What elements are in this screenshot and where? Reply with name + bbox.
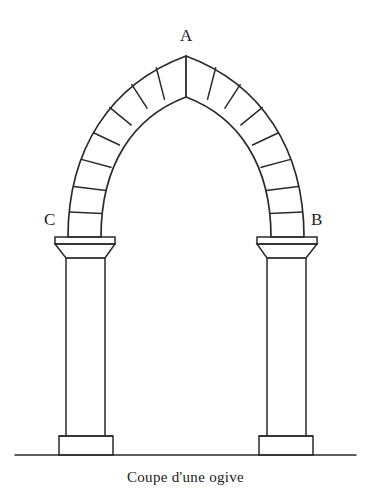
vertex-label-b: B [311,211,323,228]
left-column-echinus [55,244,115,258]
arch-right-voussoir-joint-4 [252,133,279,146]
arch-right-half [186,56,304,237]
arch-left-intrados [101,97,186,237]
vertex-label-c: C [44,211,56,228]
arch-left-half [68,56,186,237]
ogive-arch-drawing [0,0,371,501]
right-column-echinus [257,244,317,258]
arch-left-voussoir-joint-2 [74,187,106,191]
arch-left-voussoir-joint-6 [132,84,148,108]
arch-left-voussoir-joint-4 [93,133,120,146]
right-column-shaft [267,258,306,436]
left-column-shaft [66,258,105,436]
arch-left-voussoir-joint-7 [156,67,164,100]
arch-right-extrados [186,56,304,237]
left-column-plinth [59,436,113,455]
left-column [55,237,115,455]
arch-right-voussoir-joint-7 [207,67,215,100]
arch-right-voussoir-joint-1 [270,212,303,214]
figure-page: A C B Coupe d'une ogive [0,0,371,501]
right-column-plinth [259,436,313,455]
arch-right-voussoir-joint-5 [240,107,262,125]
arch-right-intrados [186,97,271,237]
figure-caption: Coupe d'une ogive [0,469,371,486]
arch-right-voussoir-joint-6 [225,84,241,108]
arch-left-extrados [68,56,186,237]
left-column-abacus [55,237,115,244]
arch-right-voussoir-joint-2 [266,187,298,191]
right-column [257,237,317,455]
arch-left-voussoir-joint-5 [109,107,131,125]
arch-left-voussoir-joint-1 [69,212,102,214]
arch-left-voussoir-joint-3 [81,159,111,167]
arch-right-voussoir-joint-3 [260,159,290,167]
right-column-abacus [257,237,317,244]
vertex-label-a: A [180,27,192,44]
